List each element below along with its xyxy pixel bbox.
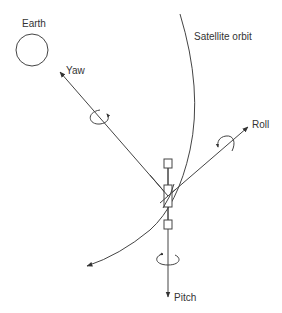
roll-rotation-arrow-icon: [218, 136, 234, 151]
earth-circle: [16, 34, 48, 66]
satellite-orbit-label: Satellite orbit: [194, 32, 252, 42]
earth-label: Earth: [22, 19, 46, 29]
diagram-graphics: [0, 0, 282, 313]
roll-axis: [168, 127, 248, 196]
roll-label: Roll: [252, 120, 269, 130]
satellite-body: [150, 159, 176, 229]
diagram-canvas: Earth Satellite orbit Yaw Roll Pitch: [0, 0, 282, 313]
yaw-label: Yaw: [66, 66, 85, 76]
satellite-orbit-curve: [87, 14, 195, 266]
pitch-label: Pitch: [174, 293, 196, 303]
